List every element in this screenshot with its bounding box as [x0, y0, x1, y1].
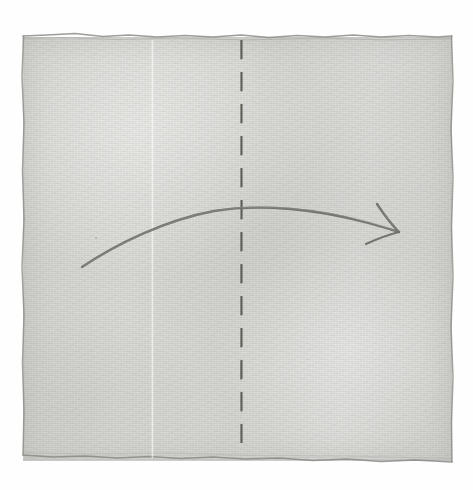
paper-sheet	[23, 37, 452, 461]
soft-crease-line	[151, 40, 154, 458]
scan-canvas: Origami fold step diagram Square sheet o…	[0, 0, 473, 490]
paper-speckle-texture	[23, 37, 452, 461]
